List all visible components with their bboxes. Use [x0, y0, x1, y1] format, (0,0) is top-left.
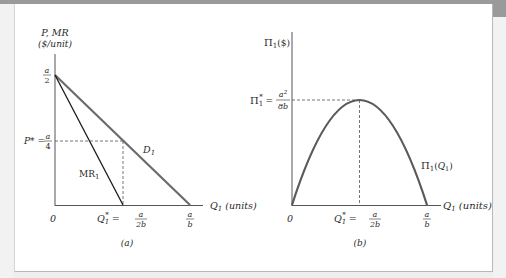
svg-text:2b: 2b — [369, 220, 380, 229]
panel-b-quantity-label: Q1* = a 2b — [334, 210, 381, 229]
panel-b-y-axis-label: Π1($) — [264, 37, 290, 50]
panel-a-x-axis-label: Q1 (units) — [210, 200, 257, 213]
svg-text:8b: 8b — [278, 102, 288, 111]
svg-text:2b: 2b — [135, 220, 146, 229]
panel-a-caption: (a) — [121, 238, 134, 248]
svg-text:a: a — [188, 210, 193, 219]
svg-text:Q1* =: Q1* = — [97, 211, 120, 226]
svg-text:Q1* =: Q1* = — [334, 211, 357, 226]
svg-text:4: 4 — [45, 142, 50, 151]
svg-text:a: a — [373, 210, 378, 219]
svg-text:Π1* =: Π1* = — [250, 93, 273, 108]
intercept-label: a 2 — [43, 66, 51, 85]
svg-text:a: a — [45, 66, 50, 75]
mr-curve-label: MR1 — [79, 169, 99, 181]
svg-text:2: 2 — [44, 76, 49, 85]
equilibrium-price-label: P* = a 4 — [23, 132, 52, 151]
panel-a: P, MR ($/unit) a 2 P* = a 4 D1 MR1 Q1 (u… — [23, 27, 257, 248]
panel-b-caption: (b) — [354, 238, 367, 248]
svg-text:b: b — [424, 220, 429, 229]
svg-text:a2: a2 — [279, 89, 288, 99]
demand-curve-label: D1 — [142, 144, 155, 157]
svg-text:P* =: P* = — [23, 136, 45, 146]
panel-a-quantity-label: Q1* = a 2b — [97, 210, 147, 229]
panel-b-origin-label: 0 — [287, 213, 293, 224]
profit-x-intercept-label: a b — [423, 210, 431, 229]
figure-svg: P, MR ($/unit) a 2 P* = a 4 D1 MR1 Q1 (u… — [0, 0, 506, 278]
svg-text:a: a — [425, 210, 430, 219]
demand-curve — [55, 75, 190, 205]
demand-x-intercept-label: a b — [186, 210, 194, 229]
profit-curve-label: Π1(Q1) — [421, 160, 453, 173]
svg-text:a: a — [139, 210, 144, 219]
panel-a-y-axis-label: P, MR — [40, 27, 68, 38]
max-profit-label: Π1* = a2 8b — [250, 89, 290, 111]
panel-a-origin-label: 0 — [50, 213, 56, 224]
svg-text:a: a — [46, 132, 51, 141]
marginal-revenue-curve — [55, 75, 123, 205]
panel-a-y-axis-unit: ($/unit) — [38, 39, 72, 49]
panel-b-x-axis-label: Q1 (units) — [443, 200, 492, 213]
panel-b: Π1($) Π1* = a2 8b Π1(Q1) Q1 (units) 0 Q1… — [250, 32, 492, 248]
svg-text:b: b — [187, 220, 192, 229]
